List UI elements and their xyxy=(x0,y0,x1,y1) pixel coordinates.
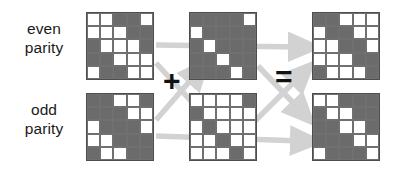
grid-cell xyxy=(313,53,326,66)
grid-cell xyxy=(190,107,203,120)
grid-cell xyxy=(353,147,366,160)
grid-cell xyxy=(313,26,326,39)
grid-cell xyxy=(203,66,216,79)
grid-cell xyxy=(326,13,339,26)
grid-cell xyxy=(203,13,216,26)
grid-cell xyxy=(127,53,140,66)
grid-cell xyxy=(326,147,339,160)
grid-cell xyxy=(87,53,100,66)
grid-cell xyxy=(100,134,113,147)
grid-cell xyxy=(339,13,352,26)
grid-cell xyxy=(190,147,203,160)
grid-cell xyxy=(339,107,352,120)
grid-cell xyxy=(313,94,326,107)
grid-cell xyxy=(366,147,379,160)
grid-cell xyxy=(203,39,216,52)
grid-cell xyxy=(230,107,243,120)
grid-cell xyxy=(127,66,140,79)
parity-diagram: even parity odd parity + = xyxy=(0,0,396,172)
grid-cell xyxy=(216,120,229,133)
grid-cell xyxy=(366,66,379,79)
grid-cell xyxy=(230,66,243,79)
grid-cell xyxy=(140,94,153,107)
grid-cell xyxy=(87,39,100,52)
grid-cell xyxy=(313,134,326,147)
grid-cell xyxy=(216,66,229,79)
grid-cell xyxy=(366,26,379,39)
grid-cell xyxy=(366,13,379,26)
grid-cell xyxy=(353,107,366,120)
grid-cell xyxy=(190,53,203,66)
grid-cell xyxy=(113,26,126,39)
grid-cell xyxy=(216,13,229,26)
grid-cell xyxy=(113,39,126,52)
grid-cell xyxy=(243,66,256,79)
grid-cell xyxy=(230,147,243,160)
grid-cell xyxy=(127,13,140,26)
grid-cell xyxy=(140,13,153,26)
grid-cell xyxy=(243,13,256,26)
grid-cell xyxy=(243,134,256,147)
grid-cell xyxy=(326,26,339,39)
grid-cell xyxy=(339,39,352,52)
grid-cell xyxy=(190,134,203,147)
grid-cell xyxy=(100,13,113,26)
grid-cell xyxy=(140,120,153,133)
grid-cell xyxy=(190,13,203,26)
grid-cell xyxy=(366,94,379,107)
grid-cell xyxy=(230,134,243,147)
grid-cell xyxy=(366,107,379,120)
grid-cell xyxy=(113,147,126,160)
grid-cell xyxy=(313,107,326,120)
grid-cell xyxy=(203,107,216,120)
grid-cell xyxy=(243,53,256,66)
grid-cell xyxy=(203,53,216,66)
grid-cell xyxy=(230,26,243,39)
grid-even-parity-operand-b xyxy=(189,12,257,80)
grid-cell xyxy=(366,134,379,147)
grid-cell xyxy=(313,120,326,133)
grid-cell xyxy=(190,66,203,79)
grid-cell xyxy=(100,107,113,120)
grid-cell xyxy=(243,94,256,107)
grid-cell xyxy=(216,107,229,120)
grid-cell xyxy=(100,39,113,52)
grid-cell xyxy=(140,53,153,66)
grid-cell xyxy=(140,107,153,120)
grid-cell xyxy=(353,120,366,133)
grid-cell xyxy=(100,147,113,160)
grid-cell xyxy=(190,94,203,107)
grid-cell xyxy=(216,39,229,52)
grid-cell xyxy=(203,120,216,133)
grid-cell xyxy=(353,39,366,52)
grid-cell xyxy=(87,94,100,107)
grid-even-parity-result xyxy=(312,12,380,80)
grid-cell xyxy=(203,26,216,39)
grid-cell xyxy=(216,94,229,107)
grid-cell xyxy=(87,120,100,133)
grid-cell xyxy=(113,134,126,147)
grid-cell xyxy=(326,53,339,66)
equals-operator-icon: = xyxy=(275,62,293,92)
grid-cell xyxy=(230,120,243,133)
grid-cell xyxy=(140,147,153,160)
grid-cell xyxy=(230,53,243,66)
grid-cell xyxy=(127,107,140,120)
grid-odd-parity-result xyxy=(312,93,380,161)
grid-cell xyxy=(326,134,339,147)
grid-cell xyxy=(203,147,216,160)
grid-cell xyxy=(190,39,203,52)
grid-cell xyxy=(100,53,113,66)
grid-cell xyxy=(230,39,243,52)
grid-cell xyxy=(353,94,366,107)
grid-cell xyxy=(113,94,126,107)
grid-cell xyxy=(203,94,216,107)
grid-cell xyxy=(216,134,229,147)
grid-cell xyxy=(140,134,153,147)
grid-cell xyxy=(339,53,352,66)
grid-cell xyxy=(216,147,229,160)
grid-cell xyxy=(339,134,352,147)
grid-cell xyxy=(366,39,379,52)
grid-cell xyxy=(353,134,366,147)
grid-cell xyxy=(313,39,326,52)
